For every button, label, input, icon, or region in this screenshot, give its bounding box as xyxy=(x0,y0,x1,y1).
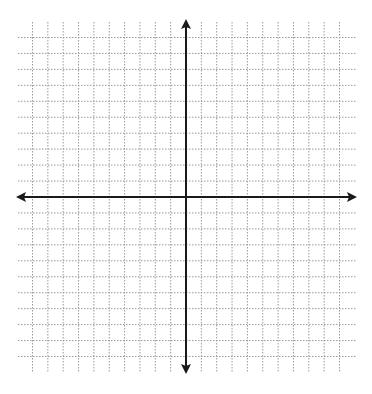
coordinate-plane xyxy=(0,0,372,394)
